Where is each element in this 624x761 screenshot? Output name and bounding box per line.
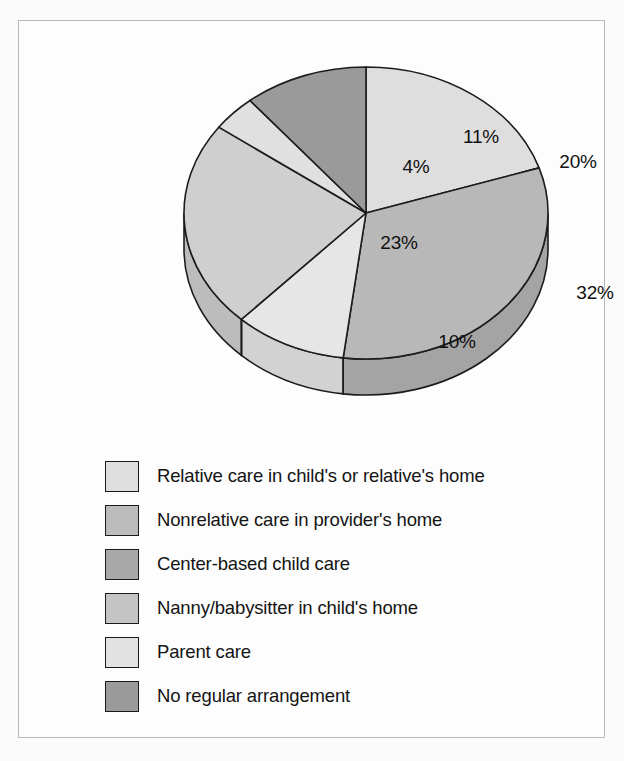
legend-item[interactable]: Nonrelative care in provider's home (105, 498, 575, 542)
legend-item-label: Nanny/babysitter in child's home (157, 597, 418, 619)
figure-frame: 20%32%10%23%4%11% Relative care in child… (18, 20, 605, 738)
pie-slice-label: 11% (463, 126, 499, 148)
legend-swatch-no-arrangement (105, 681, 139, 712)
pie-slice-label: 20% (559, 151, 596, 173)
pie-slices (184, 67, 548, 359)
pie-slice-label: 4% (402, 156, 429, 178)
legend-item-label: Nonrelative care in provider's home (157, 509, 442, 531)
legend-item-label: Center-based child care (157, 553, 350, 575)
legend-swatch-center-based (105, 549, 139, 580)
legend-item-label: No regular arrangement (157, 685, 350, 707)
pie-chart: 20%32%10%23%4%11% (169, 45, 589, 415)
pie-slice-label: 23% (380, 232, 417, 254)
legend-item[interactable]: Center-based child care (105, 542, 575, 586)
pie-slice-label: 10% (438, 331, 475, 353)
legend-swatch-nonrelative-care (105, 505, 139, 536)
legend-item[interactable]: Relative care in child's or relative's h… (105, 454, 575, 498)
legend-item-label: Parent care (157, 641, 251, 663)
legend-swatch-nanny (105, 593, 139, 624)
legend-swatch-relative-care (105, 461, 139, 492)
pie-chart-svg (169, 45, 589, 415)
legend-item[interactable]: Nanny/babysitter in child's home (105, 586, 575, 630)
legend-item[interactable]: No regular arrangement (105, 674, 575, 718)
pie-slice-label: 32% (576, 282, 613, 304)
legend-item-label: Relative care in child's or relative's h… (157, 465, 485, 487)
chart-legend: Relative care in child's or relative's h… (105, 454, 575, 718)
legend-swatch-parent-care (105, 637, 139, 668)
legend-item[interactable]: Parent care (105, 630, 575, 674)
